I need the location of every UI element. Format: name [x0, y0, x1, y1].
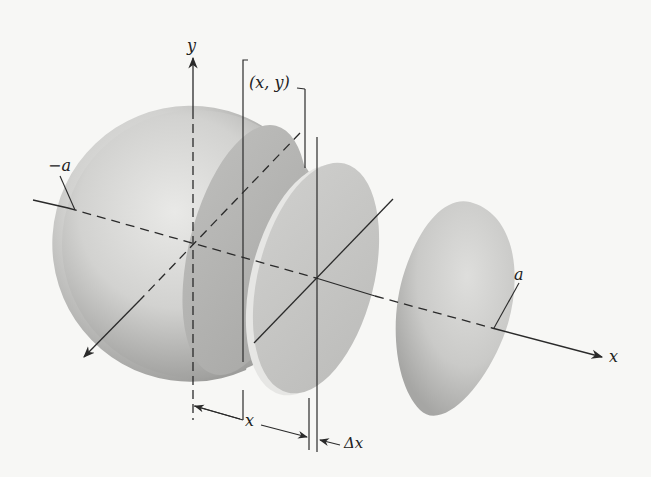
neg-a-label: −a — [48, 156, 71, 175]
y-axis-label: y — [186, 36, 197, 55]
diagram-canvas: y x −a a (x, y) x Δx — [0, 0, 651, 477]
x-axis-label: x — [609, 347, 618, 366]
sphere-slice-diagram: y x −a a (x, y) x Δx — [0, 0, 651, 477]
dim-x-label: x — [245, 411, 254, 430]
x-axis-arrow — [492, 328, 602, 357]
dim-x-right — [261, 425, 307, 437]
spherical-cap — [396, 201, 515, 416]
point-bracket-right — [297, 88, 305, 89]
point-bracket-left — [243, 60, 248, 66]
point-label: (x, y) — [249, 73, 290, 92]
dim-dx-label: Δx — [343, 434, 364, 452]
dim-x-mid-l — [194, 406, 240, 419]
pos-a-label: a — [514, 265, 524, 284]
dim-dx-arrow — [320, 440, 340, 445]
